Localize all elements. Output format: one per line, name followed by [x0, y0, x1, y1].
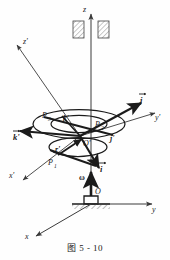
point-P1-label: P [47, 158, 53, 167]
j-hat-vector [80, 103, 141, 136]
z-prime-axis-line [17, 45, 80, 136]
j-prime-label: j' [108, 134, 115, 143]
ground-support-hatched [72, 196, 110, 209]
figure-caption: 图 5 - 10 [0, 241, 170, 254]
y-axis-label: y [151, 205, 156, 214]
x-prime-axis-label: x' [8, 171, 15, 180]
r-prime-vector [58, 139, 82, 155]
i-hat-label: i [100, 164, 103, 174]
i-hat-label-group: i [99, 162, 106, 174]
x-axis-line [36, 204, 91, 236]
k-prime-inner-label: k' [63, 114, 69, 123]
y-prime-axis-label: y' [154, 113, 161, 122]
k-prime-hat-label: k' [13, 132, 20, 142]
point-P3-label: P [41, 111, 47, 120]
omega-label: ω [79, 173, 85, 182]
mechanics-diagram: z z' y' x' y x j i k' k' [0, 0, 170, 260]
x-axis-label: x [24, 232, 29, 241]
point-P2-label-group: P 2 [94, 120, 104, 131]
point-P1-subscript: 1 [54, 163, 57, 169]
origin-O-label: O [95, 187, 101, 196]
k-prime-hat-label-group: k' [13, 130, 20, 142]
origin-O-prime-label: O' [83, 139, 91, 148]
point-P2-label: P [94, 120, 100, 129]
r-prime-label: r' [55, 145, 61, 154]
figure-container: z z' y' x' y x j i k' k' [0, 0, 170, 260]
point-P1-label-group: P 1 [47, 158, 57, 169]
z-prime-axis-label: z' [22, 37, 28, 46]
point-P3-subscript: 3 [47, 116, 51, 122]
point-dot-O-prime [79, 135, 82, 138]
point-P2-subscript: 2 [101, 125, 104, 131]
j-hat-label-group: j [138, 93, 146, 105]
z-axis-label: z [82, 5, 87, 14]
